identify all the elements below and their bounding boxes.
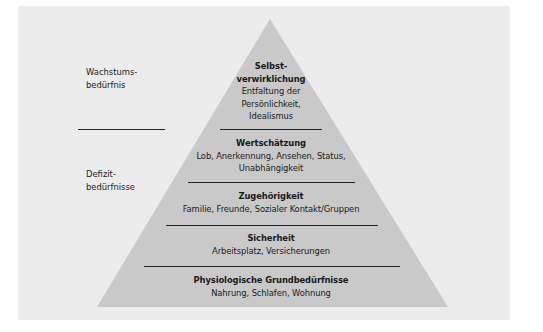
- label-deficit-need: Defizit- bedürfnisse: [86, 168, 135, 193]
- level-title: verwirklichung: [237, 73, 306, 86]
- level-desc: Entfaltung der: [237, 85, 306, 98]
- level-safety: Sicherheit Arbeitsplatz, Versicherungen: [212, 232, 330, 257]
- level-desc: Nahrung, Schlafen, Wohnung: [194, 287, 349, 300]
- divider-growth-deficit: [78, 129, 165, 130]
- level-title: Wertschätzung: [196, 137, 345, 150]
- level-desc: Lob, Anerkennung, Ansehen, Status,: [196, 150, 345, 163]
- level-esteem: Wertschätzung Lob, Anerkennung, Ansehen,…: [196, 137, 345, 175]
- level-title: Selbst-: [237, 60, 306, 73]
- level-title: Zugehörigkeit: [183, 190, 360, 203]
- level-title: Physiologische Grundbedürfnisse: [194, 274, 349, 287]
- level-physiological: Physiologische Grundbedürfnisse Nahrung,…: [194, 274, 349, 299]
- divider-level-3: [166, 225, 378, 226]
- level-desc: Idealismus: [237, 110, 306, 123]
- label-line: bedürfnisse: [86, 181, 135, 194]
- label-line: Wachstums-: [86, 66, 137, 79]
- level-belonging: Zugehörigkeit Familie, Freunde, Sozialer…: [183, 190, 360, 215]
- label-line: Defizit-: [86, 168, 135, 181]
- level-desc: Familie, Freunde, Sozialer Kontakt/Grupp…: [183, 203, 360, 216]
- label-growth-need: Wachstums- bedürfnis: [86, 66, 137, 91]
- divider-level-4: [144, 266, 400, 267]
- divider-level-2: [188, 182, 355, 183]
- level-self-actualization: Selbst- verwirklichung Entfaltung der Pe…: [237, 60, 306, 123]
- level-desc: Persönlichkeit,: [237, 98, 306, 111]
- level-desc: Arbeitsplatz, Versicherungen: [212, 245, 330, 258]
- divider-level-1: [220, 129, 322, 130]
- label-line: bedürfnis: [86, 79, 137, 92]
- level-title: Sicherheit: [212, 232, 330, 245]
- level-desc: Unabhängigkeit: [196, 162, 345, 175]
